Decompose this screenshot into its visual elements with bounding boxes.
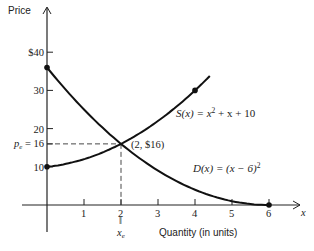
curve-point	[44, 65, 50, 71]
demand-eq-exponent: 2	[257, 161, 261, 170]
y-tick-label: $40	[28, 47, 44, 58]
x-ticks: 123456	[81, 199, 271, 219]
curve-point	[266, 202, 272, 208]
x-tick-label: 3	[155, 208, 160, 219]
supply-demand-chart: 123456 102030$40 Price x Quantity (in un…	[0, 0, 314, 251]
x-tick-label: 6	[266, 208, 271, 219]
pe-label: pe = 16	[13, 138, 44, 151]
supply-equation: S(x) = x2 + x + 10	[176, 106, 256, 120]
xe-subscript: e	[122, 232, 125, 240]
x-axis-symbol: x	[300, 207, 306, 218]
xe-label: xe	[116, 227, 125, 240]
supply-eq-tail: + x + 10	[215, 107, 255, 119]
supply-eq-main: S(x) = x	[176, 107, 212, 120]
y-tick-label: 20	[34, 124, 45, 135]
x-tick-label: 4	[192, 208, 198, 219]
supply-curve	[47, 76, 210, 167]
y-tick-label: 30	[34, 85, 45, 96]
equilibrium-guides	[47, 144, 121, 205]
curve-point	[44, 164, 50, 170]
x-tick-label: 5	[229, 208, 234, 219]
xe-equals: ‖	[119, 215, 122, 226]
y-tick-label: 10	[34, 162, 45, 173]
demand-equation: D(x) = (x − 6)2	[192, 161, 261, 175]
x-tick-label: 1	[81, 208, 86, 219]
pe-value: = 16	[22, 138, 44, 149]
demand-curve	[47, 68, 269, 206]
equilibrium-label: (2, $16)	[131, 139, 165, 151]
demand-eq-main: D(x) = (x − 6)	[192, 162, 257, 175]
curve-point	[192, 88, 198, 94]
marked-points	[44, 65, 272, 208]
y-axis-title: Price	[8, 5, 31, 16]
x-axis-title: Quantity (in units)	[159, 227, 237, 238]
